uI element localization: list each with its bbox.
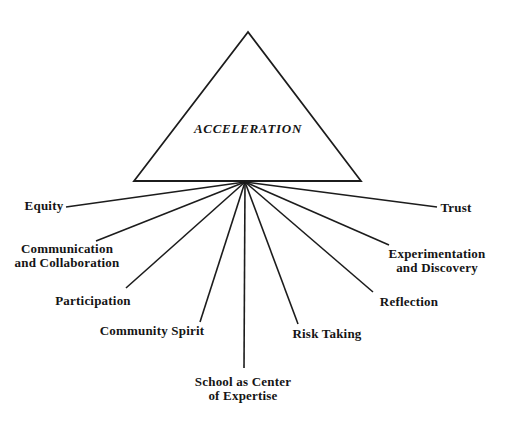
node-label-risk-taking: Risk Taking bbox=[292, 327, 361, 341]
diagram-lines bbox=[0, 0, 505, 427]
triangle-shape bbox=[134, 32, 361, 181]
connector-reflection bbox=[245, 182, 373, 292]
triangle-title: ACCELERATION bbox=[194, 121, 302, 137]
node-label-school-as-center-of-expertise: School as Center of Expertise bbox=[195, 375, 291, 402]
node-label-communication-and-collaboration: Communication and Collaboration bbox=[15, 242, 120, 269]
node-label-experimentation-and-discovery: Experimentation and Discovery bbox=[389, 247, 486, 274]
node-label-participation: Participation bbox=[55, 294, 131, 308]
node-label-equity: Equity bbox=[25, 199, 64, 213]
acceleration-diagram: ACCELERATION Equity Communication and Co… bbox=[0, 0, 505, 427]
connector-communication-and-collaboration bbox=[96, 182, 245, 241]
node-label-community-spirit: Community Spirit bbox=[100, 324, 205, 338]
connector-school-as-center-of-expertise bbox=[244, 182, 245, 368]
node-label-trust: Trust bbox=[440, 201, 471, 215]
connector-risk-taking bbox=[245, 182, 298, 324]
node-label-reflection: Reflection bbox=[380, 295, 438, 309]
connector-equity bbox=[66, 182, 245, 207]
